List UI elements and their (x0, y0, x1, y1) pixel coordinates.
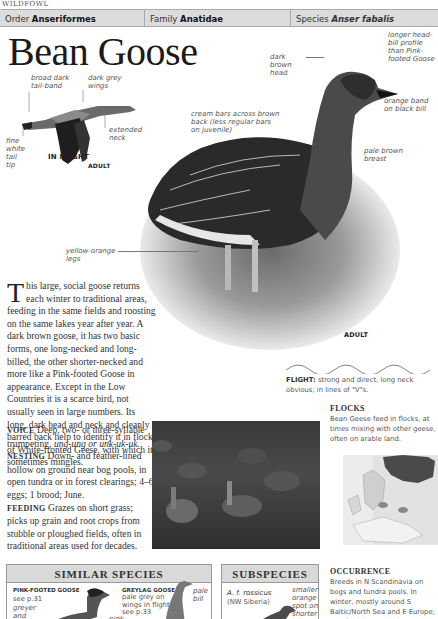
annotation-breast: pale brown breast (364, 147, 404, 163)
family-cell: Family Anatidae (145, 10, 291, 26)
leader-line-legs (118, 251, 198, 252)
flock-photo (152, 421, 320, 549)
main-adult-label: ADULT (344, 331, 368, 339)
feeding-label: FEEDING (7, 504, 46, 513)
occurrence-heading: OCCURRENCE (330, 567, 390, 576)
standing-goose-illustration (140, 60, 400, 300)
flight-label: FLIGHT: (286, 376, 316, 384)
nesting-label: NESTING (7, 452, 45, 461)
species-cell: Species Anser fabalis (291, 10, 438, 26)
order-value: Anseriformes (32, 14, 96, 24)
species-value: Anser fabalis (331, 14, 394, 24)
occurrence-text: Breeds in N Scandinavia on bogs and tund… (330, 577, 436, 619)
running-head: WILDFOWL (2, 0, 49, 8)
voice-calls: ung-ung or unk-uk-uk. (54, 438, 140, 449)
taxonomy-bar: Order Anseriformes Family Anatidae Speci… (0, 9, 438, 27)
feeding-entry: FEEDING Grazes on short grass; picks up … (7, 502, 155, 553)
species-label: Species (296, 14, 329, 24)
subspecies-name: A. f. rossicus (227, 589, 272, 597)
flight-wave-icon (286, 360, 436, 374)
family-label: Family (150, 14, 177, 24)
flight-description: FLIGHT: strong and direct, long neck obv… (286, 375, 436, 395)
annotation-bill-band: orange band on black bill (384, 97, 434, 113)
subspecies-goose-illustration (252, 603, 297, 619)
annotation-head-bill: longer head-bill profile than Pink-foote… (388, 31, 436, 63)
leader-line-head (306, 57, 324, 58)
annotation-legs: yellow-orange legs (66, 247, 116, 263)
order-cell: Order Anseriformes (0, 10, 145, 26)
subspecies-panel: SUBSPECIES A. f. rossicus (NW Siberia) s… (221, 564, 319, 619)
similar-species-panel: SIMILAR SPECIES PINK-FOOTED GOOSE see p.… (6, 564, 212, 619)
greylag-goose-illustration (157, 577, 197, 619)
similar-species-note-1: pink on (109, 615, 129, 619)
voice-label: VOICE (7, 426, 35, 435)
distribution-map (343, 455, 438, 545)
details-block: VOICE Deep, two- or three-syllable trump… (7, 424, 155, 553)
similar-species-note-0: greyer and (13, 604, 33, 619)
pink-footed-goose-illustration (42, 587, 112, 619)
similar-species-ref-0: see p.31 (13, 594, 42, 604)
flight-adult-label: ADULT (88, 162, 110, 169)
annotation-head: dark brown head (270, 53, 306, 77)
voice-entry: VOICE Deep, two- or three-syllable trump… (7, 424, 155, 450)
dropcap: T (7, 282, 24, 304)
subspecies-heading: SUBSPECIES (222, 565, 318, 583)
annotation-back-bars: cream bars across brown back (less regul… (191, 110, 281, 134)
order-label: Order (5, 14, 29, 24)
family-value: Anatidae (180, 14, 223, 24)
flocks-text: Bean Geese feed in flocks, at times mixi… (330, 414, 436, 444)
nesting-entry: NESTING Down- and feather-lined hollow o… (7, 450, 155, 501)
flocks-heading: FLOCKS (330, 404, 365, 413)
in-flight-caption: IN FLIGHT (48, 153, 89, 161)
